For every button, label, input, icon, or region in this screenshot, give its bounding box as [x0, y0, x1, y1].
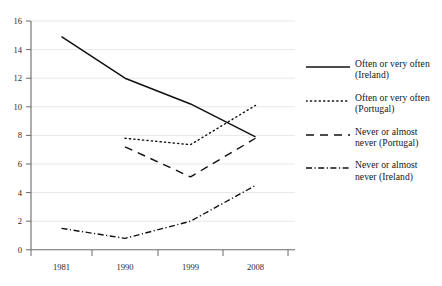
legend-label-often-portugal: Often or very often (Portugal) [355, 92, 430, 115]
y-axis-label-14: 14 [13, 45, 22, 55]
legend-item-never-ireland[interactable]: Never or almost never (Ireland) [306, 159, 442, 182]
legend-item-never-portugal[interactable]: Never or almost never (Portugal) [306, 126, 442, 149]
chart-legend: Often or very often (Ireland) Often or v… [306, 58, 442, 193]
data-series-layer [62, 37, 256, 239]
y-axis-label-6: 6 [18, 159, 23, 169]
x-axis-labels: 1981 1990 1999 2008 [53, 262, 264, 272]
x-axis-label-1999: 1999 [182, 262, 199, 272]
legend-label-line2: (Ireland) [355, 69, 430, 80]
legend-swatch-dashed-icon [306, 128, 350, 142]
legend-label-line1: Never or almost [355, 126, 418, 137]
y-axis-label-2: 2 [18, 216, 22, 226]
x-axis-label-1990: 1990 [116, 262, 133, 272]
legend-label-never-ireland: Never or almost never (Ireland) [355, 159, 418, 182]
legend-item-often-ireland[interactable]: Often or very often (Ireland) [306, 58, 442, 81]
y-axis-label-16: 16 [13, 16, 22, 26]
legend-label-line2: (Portugal) [355, 103, 430, 114]
x-axis-label-1981: 1981 [53, 262, 70, 272]
gridlines [31, 21, 295, 221]
legend-label-often-ireland: Often or very often (Ireland) [355, 58, 430, 81]
y-axis-ticks [26, 21, 31, 250]
y-axis-label-10: 10 [13, 102, 22, 112]
y-axis-label-0: 0 [18, 245, 22, 255]
legend-label-line2: never (Portugal) [355, 137, 418, 148]
legend-label-line1: Often or very often [355, 58, 430, 69]
y-axis-label-12: 12 [13, 73, 22, 83]
y-axis-labels: 16 14 12 10 8 6 4 2 0 [13, 16, 22, 255]
legend-label-never-portugal: Never or almost never (Portugal) [355, 126, 418, 149]
y-axis-label-4: 4 [18, 188, 23, 198]
legend-swatch-dotted-icon [306, 94, 350, 108]
x-axis-ticks [31, 250, 288, 256]
legend-item-often-portugal[interactable]: Often or very often (Portugal) [306, 92, 442, 115]
x-axis-label-2008: 2008 [247, 262, 264, 272]
series-line-1 [125, 105, 256, 144]
legend-swatch-dashdot-icon [306, 161, 350, 175]
legend-swatch-solid-icon [306, 60, 350, 74]
series-line-0 [62, 37, 256, 137]
line-chart: 16 14 12 10 8 6 4 2 0 1981 1990 1999 200… [0, 0, 442, 286]
y-axis-label-8: 8 [18, 130, 22, 140]
legend-label-line1: Often or very often [355, 92, 430, 103]
series-line-3 [62, 185, 256, 238]
legend-label-line1: Never or almost [355, 159, 418, 170]
legend-label-line2: never (Ireland) [355, 171, 418, 182]
